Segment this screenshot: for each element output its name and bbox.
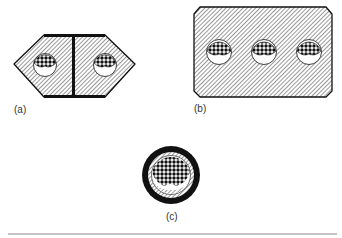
figure-b-label: (b) [194, 103, 206, 114]
figure-a [14, 34, 135, 98]
figure-c [142, 146, 200, 204]
figure-c-label: (c) [166, 211, 178, 222]
hole-right [94, 54, 117, 77]
figure-b [194, 7, 332, 97]
diagram-canvas: (a) (b) (c) [0, 0, 342, 238]
hole-3 [297, 40, 322, 65]
hole-left [34, 54, 57, 77]
hole-2 [252, 40, 277, 65]
hole-1 [207, 40, 232, 65]
figure-a-label: (a) [14, 104, 26, 115]
